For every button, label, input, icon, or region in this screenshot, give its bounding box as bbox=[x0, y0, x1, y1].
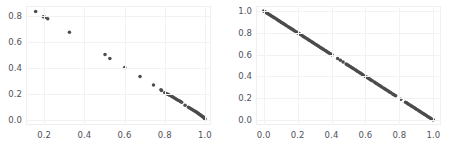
x-tick-label: 0.6 bbox=[118, 130, 132, 140]
gridline-vertical bbox=[399, 6, 400, 125]
data-point bbox=[341, 60, 345, 64]
y-tick-label: 0.2 bbox=[232, 93, 252, 103]
data-point bbox=[180, 100, 184, 104]
data-point bbox=[183, 103, 187, 107]
gridline-vertical bbox=[205, 6, 206, 125]
x-tick-label: 0.8 bbox=[392, 130, 406, 140]
data-point bbox=[152, 83, 156, 87]
y-tick-label: 0.0 bbox=[232, 115, 252, 125]
data-point bbox=[138, 75, 142, 79]
scatter-points-right bbox=[256, 6, 441, 125]
x-tick-label: 0.6 bbox=[359, 130, 373, 140]
y-tick-label: 0.2 bbox=[2, 89, 22, 99]
gridline-vertical bbox=[332, 6, 333, 125]
gridline-vertical bbox=[125, 6, 126, 125]
data-point bbox=[394, 94, 398, 98]
chart-panel-right: 0.00.20.40.60.81.00.00.20.40.60.81.0 bbox=[229, 0, 458, 150]
y-tick-label: 1.0 bbox=[232, 6, 252, 16]
gridline-horizontal bbox=[26, 16, 211, 17]
data-point bbox=[68, 31, 72, 35]
data-point bbox=[108, 57, 112, 61]
gridline-horizontal bbox=[256, 11, 441, 12]
plot-area-right bbox=[256, 6, 441, 125]
gridline-vertical bbox=[298, 6, 299, 125]
gridline-horizontal bbox=[256, 120, 441, 121]
gridline-horizontal bbox=[256, 98, 441, 99]
data-point bbox=[103, 53, 107, 57]
chart-panel-left: 0.20.40.60.81.00.00.20.40.60.8 bbox=[0, 0, 229, 150]
x-tick-label: 0.8 bbox=[158, 130, 172, 140]
y-tick-label: 0.8 bbox=[232, 28, 252, 38]
gridline-horizontal bbox=[256, 55, 441, 56]
x-tick-label: 0.2 bbox=[291, 130, 305, 140]
gridline-horizontal bbox=[26, 120, 211, 121]
y-tick-label: 0.4 bbox=[2, 63, 22, 73]
scatter-figure: 0.20.40.60.81.00.00.20.40.60.8 0.00.20.4… bbox=[0, 0, 458, 150]
plot-area-left bbox=[26, 6, 211, 125]
gridline-vertical bbox=[84, 6, 85, 125]
x-tick-label: 0.2 bbox=[37, 130, 51, 140]
gridline-vertical bbox=[264, 6, 265, 125]
gridline-horizontal bbox=[26, 68, 211, 69]
x-tick-label: 0.4 bbox=[77, 130, 91, 140]
gridline-horizontal bbox=[256, 33, 441, 34]
y-tick-label: 0.0 bbox=[2, 115, 22, 125]
scatter-points-left bbox=[26, 6, 211, 125]
x-tick-label: 0.4 bbox=[325, 130, 339, 140]
gridline-horizontal bbox=[256, 76, 441, 77]
gridline-vertical bbox=[365, 6, 366, 125]
y-tick-label: 0.6 bbox=[232, 50, 252, 60]
data-point bbox=[160, 89, 164, 93]
data-point bbox=[46, 17, 50, 21]
gridline-horizontal bbox=[26, 94, 211, 95]
gridline-horizontal bbox=[26, 42, 211, 43]
gridline-vertical bbox=[433, 6, 434, 125]
x-tick-label: 1.0 bbox=[426, 130, 440, 140]
data-point bbox=[34, 10, 38, 14]
y-tick-label: 0.8 bbox=[2, 11, 22, 21]
y-tick-label: 0.4 bbox=[232, 71, 252, 81]
x-tick-label: 0.0 bbox=[257, 130, 271, 140]
y-tick-label: 0.6 bbox=[2, 37, 22, 47]
gridline-vertical bbox=[165, 6, 166, 125]
gridline-vertical bbox=[44, 6, 45, 125]
x-tick-label: 1.0 bbox=[198, 130, 212, 140]
